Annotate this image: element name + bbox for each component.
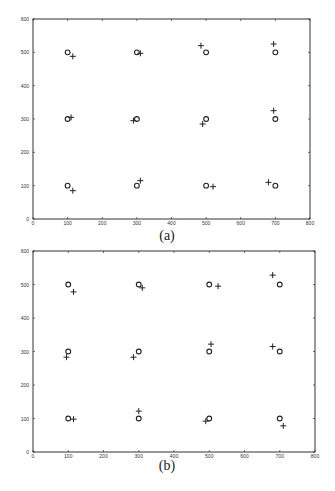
plus-marker — [270, 272, 276, 278]
circle-marker — [66, 282, 71, 287]
y-tick-label: 0 — [26, 449, 29, 455]
plus-marker — [130, 354, 136, 360]
x-tick-label: 200 — [99, 453, 108, 459]
y-tick-label: 100 — [21, 416, 30, 422]
circle-marker — [207, 282, 212, 287]
x-tick-label: 600 — [240, 453, 249, 459]
plus-marker — [136, 408, 142, 414]
circle-marker — [277, 416, 282, 421]
circle-marker — [136, 416, 141, 421]
plus-marker — [71, 289, 77, 295]
axes: 0100200300400500600700800010020030040050… — [21, 248, 320, 459]
series-circles — [66, 282, 282, 421]
x-tick-label: 700 — [276, 453, 285, 459]
circle-marker — [136, 282, 141, 287]
circle-marker — [136, 349, 141, 354]
plus-marker — [215, 283, 221, 289]
circle-marker — [277, 349, 282, 354]
circle-marker — [66, 416, 71, 421]
plus-marker — [280, 423, 286, 429]
plus-marker — [203, 418, 209, 424]
circle-marker — [207, 349, 212, 354]
x-tick-label: 300 — [135, 453, 144, 459]
x-tick-label: 500 — [205, 453, 214, 459]
circle-marker — [207, 416, 212, 421]
y-tick-label: 600 — [21, 248, 30, 254]
plus-marker — [63, 354, 69, 360]
x-tick-label: 800 — [311, 453, 320, 459]
chart-panel-b: 0100200300400500600700800010020030040050… — [0, 0, 335, 491]
y-tick-label: 500 — [21, 282, 30, 288]
plus-marker — [71, 416, 77, 422]
plus-marker — [208, 341, 214, 347]
y-tick-label: 400 — [21, 315, 30, 321]
circle-marker — [277, 282, 282, 287]
y-tick-label: 200 — [21, 382, 30, 388]
y-tick-label: 300 — [21, 349, 30, 355]
plus-marker — [270, 343, 276, 349]
scatter-plot-b: 0100200300400500600700800010020030040050… — [0, 0, 335, 491]
circle-marker — [66, 349, 71, 354]
series-crosses — [63, 272, 286, 429]
caption-b: (b) — [147, 458, 187, 474]
x-tick-label: 0 — [32, 453, 35, 459]
x-tick-label: 100 — [64, 453, 73, 459]
